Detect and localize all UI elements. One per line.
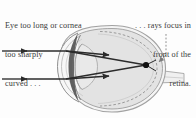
effect-caption: . . . rays focus in front of the retina. <box>135 2 191 108</box>
cause-caption-line-2: too sharply <box>5 50 82 60</box>
cause-caption-line-3: curved . . . <box>5 79 82 89</box>
effect-caption-line-3: retina. <box>135 79 191 89</box>
effect-caption-line-1: . . . rays focus in <box>135 21 191 31</box>
effect-caption-line-2: front of the <box>135 50 191 60</box>
cause-caption: Eye too long or cornea too sharply curve… <box>5 2 82 108</box>
myopia-ray-diagram-figure: Eye too long or cornea too sharply curve… <box>0 0 196 118</box>
cause-caption-line-1: Eye too long or cornea <box>5 21 82 31</box>
